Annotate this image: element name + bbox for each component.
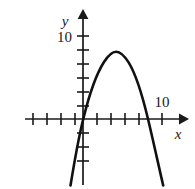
coordinate-graph: y x 10 10: [0, 0, 195, 189]
y-axis-group: [77, 9, 89, 185]
y-axis-label: y: [60, 13, 69, 29]
y-axis-arrow-icon: [78, 9, 89, 19]
x-tick-label-10: 10: [155, 94, 170, 110]
figure-root: y x 10 10: [0, 0, 195, 189]
x-axis-group: [25, 113, 189, 125]
x-axis-arrow-icon: [179, 114, 189, 125]
y-tick-label-10: 10: [57, 29, 72, 45]
x-axis-label: x: [174, 126, 182, 142]
